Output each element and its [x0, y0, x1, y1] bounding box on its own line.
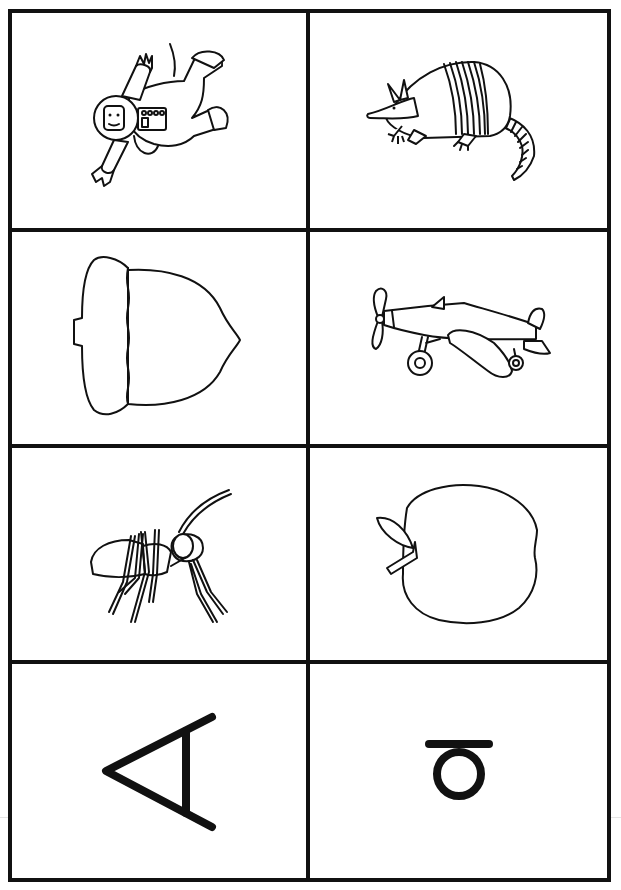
armadillo-icon	[364, 56, 554, 186]
card-uppercase-letter[interactable]: A	[12, 664, 310, 878]
card-armadillo[interactable]: armadillo	[310, 13, 607, 232]
airplane-icon	[364, 283, 554, 393]
card-ant[interactable]: ant	[12, 448, 310, 664]
apple-icon	[369, 482, 549, 627]
picture-card-sheet: astronaut	[8, 9, 611, 882]
ant-icon	[79, 482, 239, 627]
lowercase-a-rotated-icon	[419, 736, 499, 806]
card-acorn[interactable]: acorn	[12, 232, 310, 448]
card-lowercase-letter[interactable]: a	[310, 664, 607, 878]
card-astronaut[interactable]: astronaut	[12, 13, 310, 232]
card-airplane[interactable]: airplane	[310, 232, 607, 448]
astronaut-icon	[74, 36, 244, 206]
card-grid: astronaut	[12, 13, 607, 878]
uppercase-a-rotated-icon	[94, 711, 224, 831]
acorn-icon	[64, 248, 254, 428]
card-apple[interactable]: apple	[310, 448, 607, 664]
